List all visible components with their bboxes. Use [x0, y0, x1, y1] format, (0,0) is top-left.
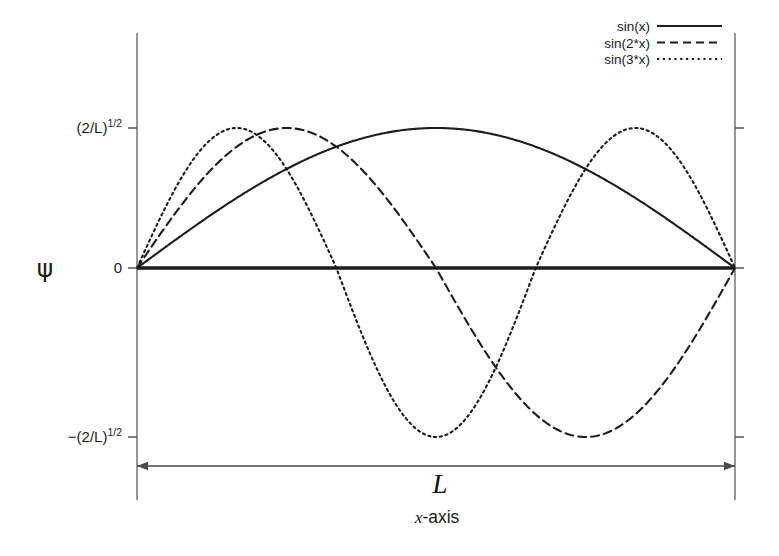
x-axis-title: x-axis — [414, 507, 460, 527]
legend-label-2: sin(2*x) — [604, 36, 650, 51]
y-tick-label-base-1: 0 — [114, 259, 122, 276]
y-tick-label-exp-2: 1/2 — [107, 426, 122, 438]
length-span-label: L — [431, 469, 447, 499]
y-tick-label-base-0: (2/L) — [77, 119, 108, 136]
wavefunction-figure: (2/L)1/20−(2/L)1/2 L sin(x)sin(2*x)sin(3… — [0, 0, 779, 556]
y-tick-label-exp-0: 1/2 — [107, 117, 122, 129]
y-tick-label-1: 0 — [114, 259, 122, 276]
x-axis-title-italic-part: x — [414, 507, 423, 527]
y-tick-label-base-2: −(2/L) — [68, 428, 108, 445]
particle-in-a-box-chart: (2/L)1/20−(2/L)1/2 L sin(x)sin(2*x)sin(3… — [0, 0, 779, 556]
x-axis-title-rest: -axis — [422, 507, 459, 527]
chart-background — [0, 0, 779, 556]
y-axis-title: ψ — [37, 254, 54, 283]
legend-label-3: sin(3*x) — [604, 52, 650, 67]
legend-label-1: sin(x) — [617, 19, 650, 34]
